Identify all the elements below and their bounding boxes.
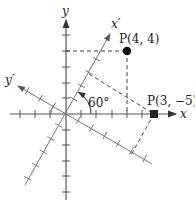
y-axis-label: y (61, 4, 69, 18)
x-axis-label: x (180, 107, 187, 121)
diagram-canvas: y x x′ y′ 60° P(4, 4) P(3, −5) (0, 0, 195, 204)
y-axis (62, 20, 70, 200)
rotation-of-axes-diagram: y x x′ y′ 60° P(4, 4) P(3, −5) (0, 0, 195, 204)
y-prime-axis-label: y′ (4, 73, 15, 87)
point-p-3-neg5 (150, 110, 158, 118)
point-p2-label: P(3, −5) (147, 94, 195, 108)
angle-label: 60° (88, 96, 109, 110)
x-prime-axis-label: x′ (111, 17, 121, 31)
point-p1-label: P(4, 4) (119, 32, 159, 46)
point-p-4-4 (123, 47, 131, 55)
